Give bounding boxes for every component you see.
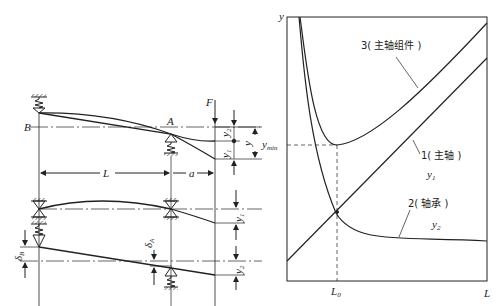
svg-text:y2: y2 [232, 265, 246, 275]
support-triangle-icon [33, 108, 45, 113]
svg-text:y: y [241, 141, 253, 147]
label-deltaB: δB [12, 251, 26, 261]
label-deltaA: δA [142, 238, 156, 248]
label-y1-top: y1 [219, 150, 233, 159]
label-a: a [189, 167, 195, 179]
spring-icon [35, 97, 43, 108]
curve-3-label: 3( 主轴组件 ) [361, 39, 422, 51]
svg-text:δA: δA [142, 238, 156, 248]
ymin-label: ymin [261, 138, 278, 152]
label-A: A [166, 115, 174, 127]
curve-1-label: 1( 主轴 ) [421, 149, 462, 161]
curve-2-symbol: y2 [431, 218, 441, 232]
deflection-vs-span-chart [287, 17, 487, 281]
label-B: B [24, 121, 31, 133]
bottom-beam-config [20, 221, 262, 290]
curve-1-symbol: y1 [426, 168, 435, 182]
label-y-total: y [241, 141, 253, 147]
beam-deflection-diagram [20, 94, 262, 306]
spring-icon [35, 224, 43, 235]
curve-2-label: 2( 轴承 ) [408, 197, 449, 209]
y-axis-label: y [278, 10, 284, 22]
svg-text:y1: y1 [232, 214, 246, 223]
curve-3-assembly [300, 17, 487, 145]
svg-text:y2: y2 [219, 128, 233, 138]
label-F: F [205, 96, 213, 108]
label-L: L [102, 167, 109, 179]
label-y1-mid: y1 [232, 214, 246, 223]
svg-text:y1: y1 [219, 150, 233, 159]
length-dimensions [41, 156, 213, 306]
x-axis-label: L [483, 287, 490, 299]
middle-beam-config [31, 190, 262, 240]
label-y2-bottom: y2 [232, 265, 246, 275]
label-y2-top: y2 [219, 128, 233, 138]
figure-canvas: B A F L a y1 y2 y y1 y2 δB δA [0, 0, 501, 306]
svg-text:δB: δB [12, 251, 26, 261]
top-beam-config [30, 94, 262, 306]
L0-label: L0 [330, 285, 341, 299]
